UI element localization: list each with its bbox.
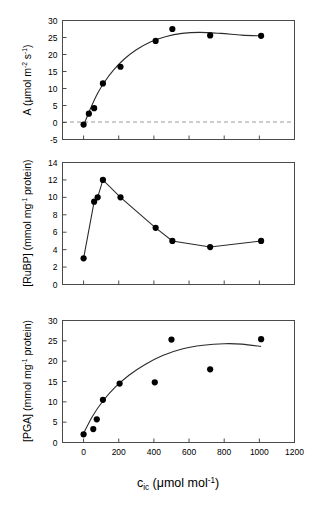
y-tick-label: 5 [53, 101, 58, 111]
multi-panel-scatter-figure: -5051015202530 A (μmol m-2 s-1) 02468101… [0, 0, 319, 505]
panel-middle-data-points [80, 177, 264, 262]
data-point [80, 121, 86, 127]
panel-bottom-y-ticks: 051015202530 [48, 316, 66, 448]
panel-bottom-PGA: 051015202530 020040060080010001200 [PGA]… [21, 316, 304, 493]
data-point [152, 379, 158, 385]
panel-middle-y-axis-title: [RuBP] (mmol mg-1 protein) [21, 159, 33, 286]
x-tick-label: 600 [182, 447, 196, 457]
svg-text:cic (μmol mol-1): cic (μmol mol-1) [137, 476, 219, 493]
panel-bottom-x-ticks [84, 439, 295, 443]
y-tick-label: 12 [48, 175, 58, 185]
y-tick-label: -5 [50, 135, 58, 145]
data-point [207, 32, 213, 38]
figure-container: -5051015202530 A (μmol m-2 s-1) 02468101… [0, 0, 319, 505]
panel-top-x-ticks [84, 136, 295, 140]
data-point [100, 397, 106, 403]
data-point [169, 238, 175, 244]
y-tick-label: 25 [48, 336, 58, 346]
data-point [95, 194, 101, 200]
data-point [153, 38, 159, 44]
x-tick-label: 0 [81, 447, 86, 457]
data-point [258, 336, 264, 342]
y-tick-label: 0 [53, 118, 58, 128]
y-tick-label: 10 [48, 192, 58, 202]
panel-bottom-x-tick-labels: 020040060080010001200 [81, 447, 304, 457]
panel-bottom-y-axis-title: [PGA] (mmol mg-1 protein) [21, 320, 33, 442]
data-point [90, 426, 96, 432]
panel-top-A: -5051015202530 A (μmol m-2 s-1) [21, 16, 295, 145]
x-tick-label: 200 [112, 447, 126, 457]
y-tick-label: 30 [48, 16, 58, 26]
data-point [117, 380, 123, 386]
panel-middle-x-ticks [84, 281, 295, 285]
data-point [169, 26, 175, 32]
y-tick-label: 5 [53, 417, 58, 427]
x-axis-title: cic (μmol mol-1) [137, 476, 219, 493]
data-point [258, 238, 264, 244]
x-tick-label: 1200 [285, 447, 304, 457]
data-point [94, 416, 100, 422]
y-tick-label: 15 [48, 67, 58, 77]
y-tick-label: 14 [48, 158, 58, 168]
data-point [168, 337, 174, 343]
data-point [153, 225, 159, 231]
x-tick-label: 800 [217, 447, 231, 457]
panel-bottom-fit-curve [82, 344, 261, 437]
data-point [91, 105, 97, 111]
x-tick-label: 1000 [250, 447, 269, 457]
y-tick-label: 0 [53, 280, 58, 290]
panel-top-y-ticks: -5051015202530 [48, 16, 66, 145]
panel-middle-frame [63, 163, 295, 285]
svg-text:A (μmol m-2 s-1): A (μmol m-2 s-1) [21, 45, 33, 116]
y-tick-label: 15 [48, 377, 58, 387]
data-point [80, 255, 86, 261]
data-point [100, 177, 106, 183]
y-tick-label: 25 [48, 33, 58, 43]
y-tick-label: 6 [53, 227, 58, 237]
y-tick-label: 0 [53, 438, 58, 448]
y-tick-label: 10 [48, 397, 58, 407]
data-point [117, 194, 123, 200]
panel-middle-RuBP: 02468101214 [RuBP] (mmol mg-1 protein) [21, 158, 295, 290]
data-point [258, 33, 264, 39]
y-tick-label: 30 [48, 316, 58, 326]
data-point [86, 111, 92, 117]
data-point [100, 80, 106, 86]
y-tick-label: 20 [48, 356, 58, 366]
panel-middle-y-ticks: 02468101214 [48, 158, 66, 290]
data-point [207, 244, 213, 250]
data-point [117, 64, 123, 70]
panel-top-fit-curve [84, 32, 262, 125]
data-point [207, 366, 213, 372]
y-tick-label: 4 [53, 245, 58, 255]
data-point [80, 431, 86, 437]
svg-text:[RuBP] (mmol mg-1 protein): [RuBP] (mmol mg-1 protein) [21, 159, 33, 286]
x-tick-label: 400 [147, 447, 161, 457]
y-tick-label: 2 [53, 262, 58, 272]
panel-middle-connecting-line [84, 180, 262, 258]
y-tick-label: 20 [48, 50, 58, 60]
panel-top-y-axis-title: A (μmol m-2 s-1) [21, 45, 33, 116]
y-tick-label: 10 [48, 84, 58, 94]
y-tick-label: 8 [53, 210, 58, 220]
svg-text:[PGA] (mmol mg-1 protein): [PGA] (mmol mg-1 protein) [21, 320, 33, 442]
